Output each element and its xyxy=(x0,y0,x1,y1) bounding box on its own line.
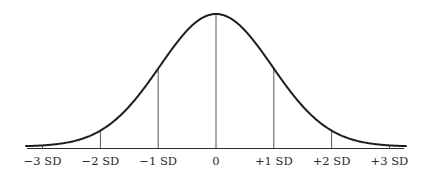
tick-label: +2 SD xyxy=(313,154,351,168)
x-axis-tick-labels: −3 SD−2 SD−1 SD0+1 SD+2 SD+3 SD xyxy=(24,154,409,168)
sd-reference-lines xyxy=(43,15,390,149)
tick-label: −1 SD xyxy=(139,154,177,168)
tick-label: +1 SD xyxy=(255,154,293,168)
tick-label: +3 SD xyxy=(371,154,409,168)
tick-label: −2 SD xyxy=(82,154,120,168)
tick-label: −3 SD xyxy=(24,154,62,168)
tick-label: 0 xyxy=(212,154,219,168)
normal-distribution-chart: −3 SD−2 SD−1 SD0+1 SD+2 SD+3 SD xyxy=(0,0,423,177)
